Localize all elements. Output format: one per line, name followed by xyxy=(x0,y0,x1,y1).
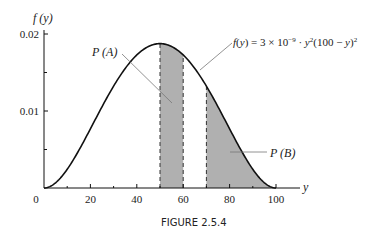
x-tick-label: 0 xyxy=(33,193,39,205)
x-tick-label: 40 xyxy=(131,193,143,205)
annotation-pa: P (A) xyxy=(91,45,117,59)
annotation-pb: P (B) xyxy=(269,146,295,160)
leader-formula xyxy=(200,43,232,70)
y-tick-label: 0.02 xyxy=(20,28,39,40)
shaded-region-b xyxy=(206,86,276,188)
shaded-region-a xyxy=(160,44,183,188)
x-tick-label: 20 xyxy=(85,193,97,205)
figure-caption: FIGURE 2.5.4 xyxy=(161,217,227,228)
x-tick-label: 80 xyxy=(224,193,236,205)
shaded-regions xyxy=(160,44,276,188)
y-tick-label: 0.01 xyxy=(20,105,39,117)
chart: 020406080100 0.010.02 f (y) y P (A) P (B… xyxy=(0,0,378,234)
x-axis-label: y xyxy=(302,180,309,194)
y-axis-label: f (y) xyxy=(33,11,53,25)
x-tick-label: 100 xyxy=(268,193,285,205)
annotation-formula: f(y) = 3 × 10−9 · y2(100 − y)2 xyxy=(233,36,358,49)
x-tick-label: 60 xyxy=(178,193,190,205)
